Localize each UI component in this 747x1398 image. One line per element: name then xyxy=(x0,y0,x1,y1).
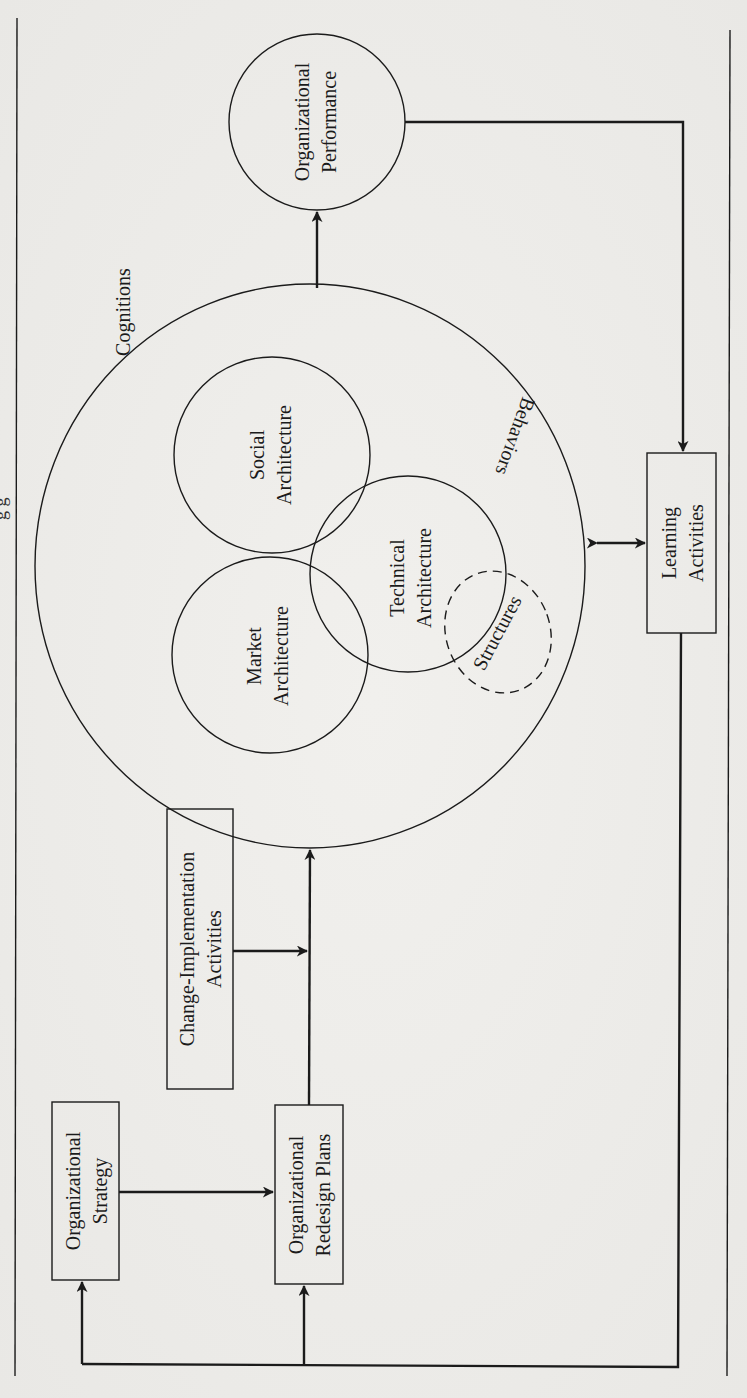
node-organizational-redesign-plans: Organizational Redesign Plans xyxy=(275,1105,343,1284)
strategy-label-line1: Organizational xyxy=(62,1131,85,1250)
page-rule-right xyxy=(727,30,730,1376)
redesign-label-line2: Redesign Plans xyxy=(312,1133,335,1256)
organizational-architecture-diagram: g g Organizational Performance Cognition… xyxy=(0,0,747,1398)
change-label-line2: Activities xyxy=(203,910,225,988)
node-organizational-performance: Organizational Performance xyxy=(229,34,405,210)
performance-label-line2: Performance xyxy=(318,71,340,173)
redesign-label-line1: Organizational xyxy=(285,1135,308,1254)
cognitions-label: Cognitions xyxy=(112,268,135,356)
node-change-implementation-activities: Change-Implementation Activities xyxy=(167,809,233,1089)
structures-label: Structures xyxy=(468,592,526,674)
market-label-line1: Market xyxy=(243,627,265,685)
node-architecture-ellipse: Cognitions Behaviors xyxy=(35,268,585,848)
technical-label-line1: Technical xyxy=(386,539,408,617)
book-page: g g Organizational Performance Cognition… xyxy=(0,0,747,1398)
arrow-redesign-to-architecture xyxy=(309,850,310,1105)
technical-label-line2: Architecture xyxy=(413,528,435,628)
node-structures: Structures xyxy=(428,556,568,708)
learning-label-line2: Activities xyxy=(685,504,707,582)
learning-label-line1: Learning xyxy=(658,507,681,579)
node-technical-architecture: Technical Architecture xyxy=(310,476,506,672)
page-rule-left xyxy=(15,18,17,1376)
change-label-line1: Change-Implementation xyxy=(176,852,199,1046)
node-organizational-strategy: Organizational Strategy xyxy=(52,1102,119,1280)
node-social-architecture: Social Architecture xyxy=(174,357,370,553)
arrow-performance-to-learning xyxy=(405,122,683,451)
behaviors-label: Behaviors xyxy=(491,395,539,479)
social-label-line1: Social xyxy=(246,430,268,480)
performance-label-line1: Organizational xyxy=(291,62,314,181)
strategy-label-line2: Strategy xyxy=(89,1158,112,1225)
node-learning-activities: Learning Activities xyxy=(647,453,716,633)
market-label-line2: Architecture xyxy=(270,606,292,706)
feedback-loop-line xyxy=(82,633,681,1367)
node-market-architecture: Market Architecture xyxy=(172,557,368,753)
cropped-heading-fragment: g g xyxy=(0,498,10,521)
social-label-line2: Architecture xyxy=(273,405,295,505)
